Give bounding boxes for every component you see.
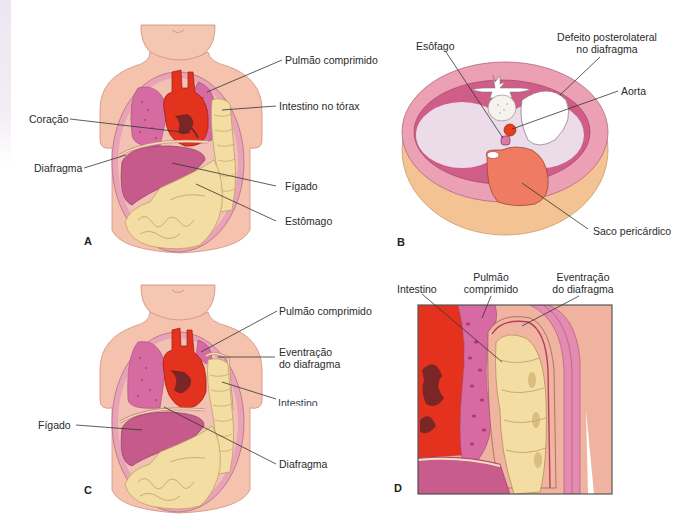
label-eventracao-line2: do diafragma	[552, 283, 613, 295]
panel-d-leader-lines	[350, 260, 697, 526]
label-eventracao-line1: Eventração	[279, 346, 332, 358]
label-defeito-posterolateral: Defeito posterolateral no diafragma	[556, 31, 658, 55]
label-pulmao-line2: comprimido	[464, 283, 518, 295]
panel-letter-a: A	[84, 235, 92, 247]
panel-b: Esôfago Defeito posterolateral no diafra…	[350, 0, 697, 260]
label-figado: Fígado	[285, 180, 318, 192]
label-eventracao-line2: do diafragma	[279, 358, 340, 370]
panel-letter-b: B	[397, 236, 405, 248]
label-eventracao-do-diafragma: Eventração do diafragma	[548, 271, 618, 295]
label-eventracao-do-diafragma: Eventração do diafragma	[279, 346, 340, 370]
panel-letter-d: D	[394, 482, 402, 494]
label-intestino: Intestino	[397, 283, 437, 295]
label-coracao: Coração	[29, 113, 69, 125]
label-figado: Fígado	[38, 419, 71, 431]
label-pulmao-line1: Pulmão	[473, 271, 509, 283]
label-defeito-line2: no diafragma	[576, 43, 637, 55]
label-estomago: Estômago	[285, 215, 332, 227]
panel-c: Pulmão comprimido Eventração do diafragm…	[0, 260, 350, 526]
label-esofago: Esôfago	[416, 40, 455, 52]
panel-letter-c: C	[84, 484, 92, 496]
panel-d: Intestino Pulmão comprimido Eventração d…	[350, 260, 697, 526]
label-saco-pericardico: Saco pericárdico	[593, 225, 671, 237]
label-intestino-no-torax: Intestino no tórax	[279, 100, 360, 112]
label-diafragma: Diafragma	[279, 458, 327, 470]
panel-c-leader-lines	[0, 260, 350, 526]
label-eventracao-line1: Eventração	[556, 271, 609, 283]
label-diafragma: Diafragma	[34, 162, 82, 174]
panel-a: Pulmão comprimido Intestino no tórax Cor…	[0, 0, 350, 260]
label-intestino: Intestino	[278, 397, 318, 406]
label-defeito-line1: Defeito posterolateral	[557, 31, 657, 43]
label-pulmao-comprimido: Pulmão comprimido	[460, 271, 522, 295]
label-aorta: Aorta	[621, 85, 646, 97]
